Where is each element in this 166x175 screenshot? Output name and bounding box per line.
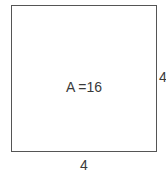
bottom-side-length-label: 4 [11, 157, 157, 173]
geometry-figure: A =16 4 4 [0, 0, 166, 175]
right-side-length-label: 4 [159, 69, 166, 85]
area-label: A =16 [11, 79, 157, 95]
